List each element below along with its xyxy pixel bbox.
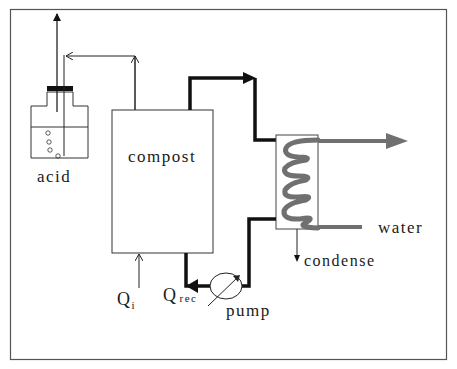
condenser bbox=[276, 133, 408, 229]
qi-label: Qi bbox=[117, 289, 136, 311]
compost-reactor bbox=[112, 110, 213, 253]
recycle-arrowhead bbox=[186, 279, 198, 293]
compost-label: compost bbox=[128, 147, 196, 166]
water-label: water bbox=[378, 218, 423, 237]
qrec-subscript: rec bbox=[180, 292, 198, 304]
recycle-line-from-condenser bbox=[242, 219, 276, 286]
qi-subscript: i bbox=[132, 299, 137, 311]
acid-bottle-cap bbox=[47, 86, 73, 91]
pump-label: pump bbox=[226, 301, 271, 320]
condense-label: condense bbox=[304, 252, 376, 269]
acid-bottle-outline bbox=[31, 92, 88, 158]
bubble bbox=[48, 148, 52, 152]
acid-label: acid bbox=[37, 167, 71, 186]
acid-trap bbox=[31, 14, 88, 158]
condense-arrowhead bbox=[294, 255, 300, 262]
bubble bbox=[46, 131, 50, 135]
coil-outlet-arrowhead bbox=[386, 133, 408, 149]
vapor-line-to-condenser bbox=[190, 78, 252, 110]
vapor-line-down bbox=[255, 78, 276, 140]
gas-line-to-acid bbox=[66, 56, 135, 110]
compost-system-diagram: acid compost Qi water condense Qrec pump bbox=[0, 0, 457, 369]
bubble bbox=[47, 140, 51, 144]
